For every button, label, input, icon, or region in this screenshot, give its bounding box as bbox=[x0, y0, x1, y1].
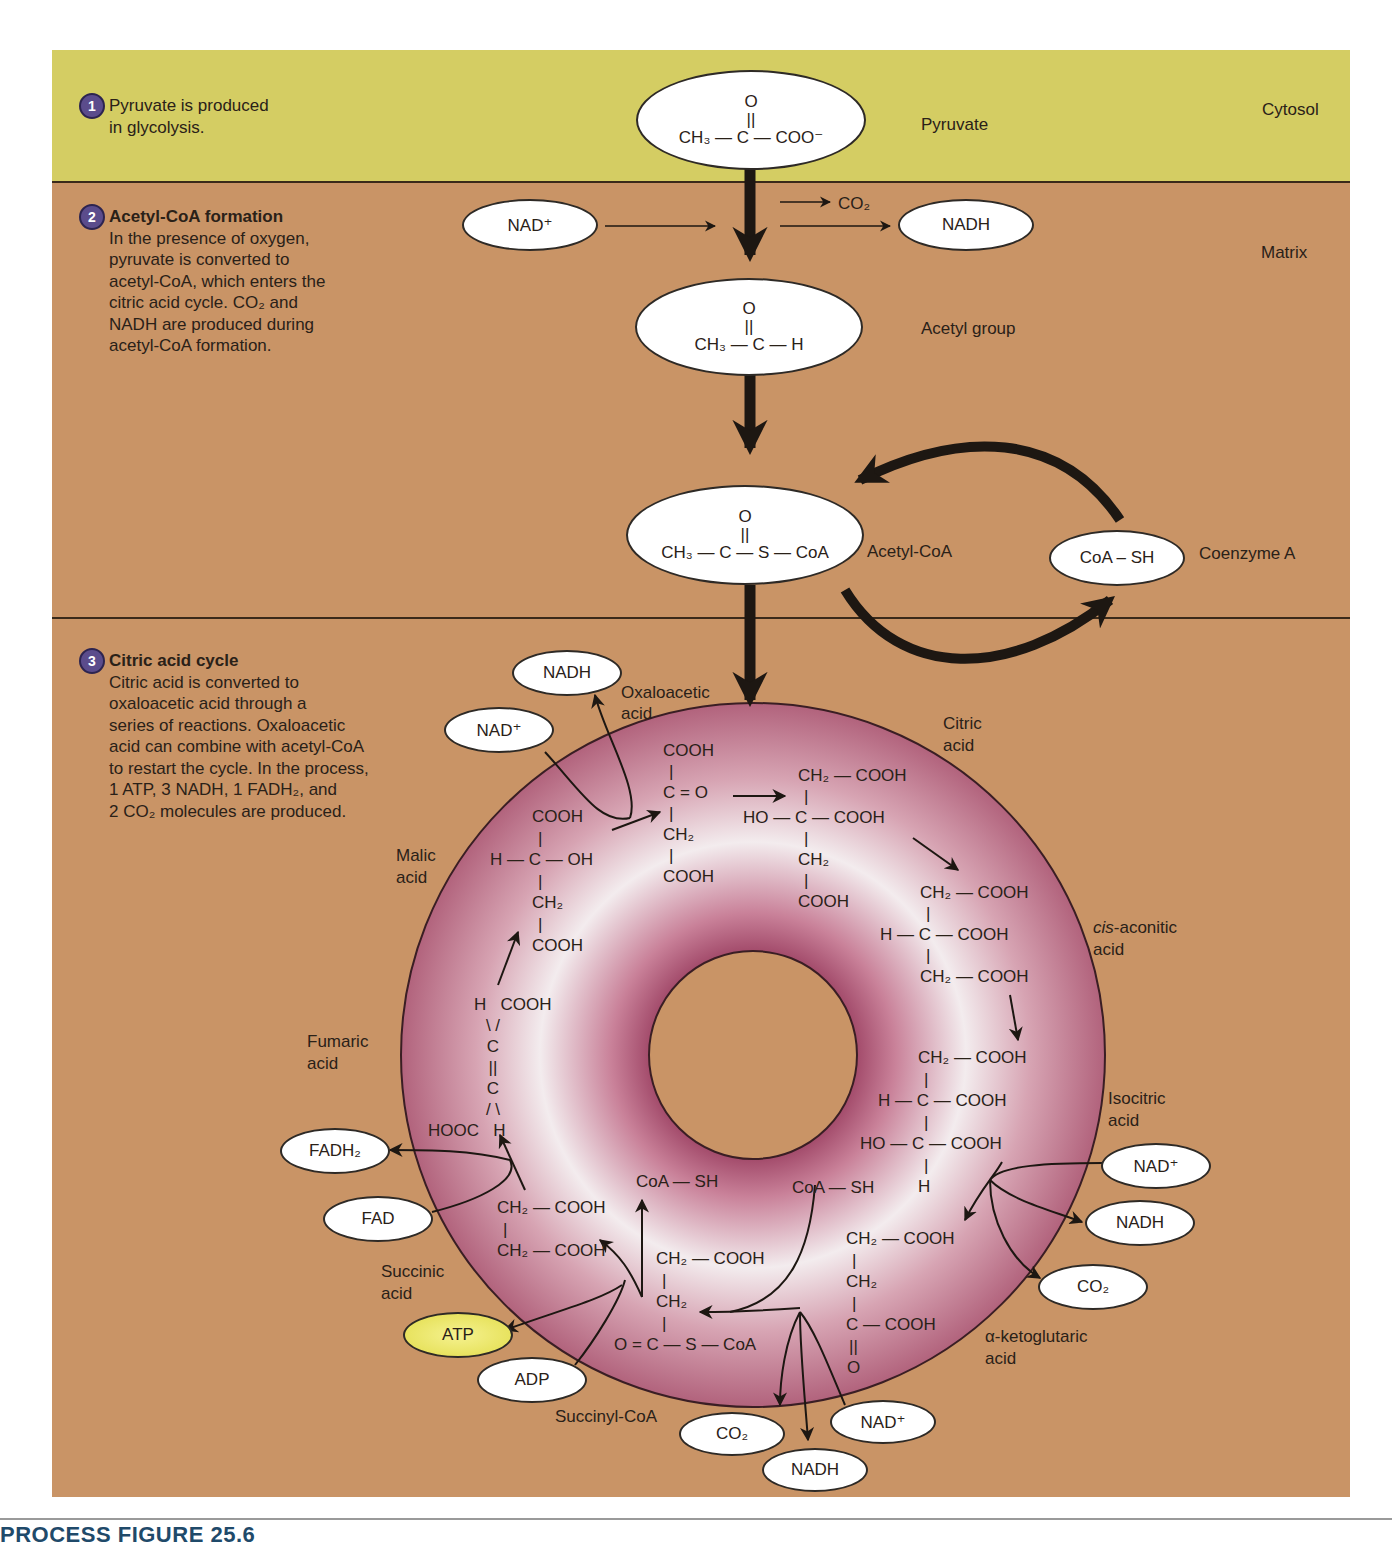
region-label-cytosol: Cytosol bbox=[1262, 99, 1319, 120]
structure-line: CH₂ bbox=[490, 892, 593, 914]
step-3-line: acid can combine with acetyl-CoA bbox=[109, 736, 409, 758]
nad-plus-malic-ellipse: NAD⁺ bbox=[444, 707, 554, 753]
structure-line: CH₂ — COOH bbox=[497, 1197, 606, 1219]
structure-line: | bbox=[490, 914, 593, 936]
nadh-isocitric-ellipse: NADH bbox=[1085, 1200, 1195, 1246]
label-line: acid bbox=[381, 1283, 444, 1305]
structure-line: HO — C — COOH bbox=[743, 807, 907, 828]
structure-line: | bbox=[860, 1069, 1027, 1091]
nadh-ketoglutaric-ellipse: NADH bbox=[762, 1448, 868, 1492]
carbonyl-oxygen: O bbox=[742, 300, 755, 318]
label-oxaloacetic-acid: Oxaloacetic acid bbox=[621, 682, 710, 724]
structure-line: | bbox=[614, 1313, 765, 1335]
nadh-ellipse: NADH bbox=[898, 199, 1034, 251]
structure-line: H COOH bbox=[428, 994, 568, 1015]
step-2-title: Acetyl-CoA formation bbox=[109, 206, 389, 228]
alpha-ketoglutaric-structure: CH₂ — COOH | CH₂ | C — COOH || O bbox=[846, 1228, 955, 1379]
double-bond: || bbox=[747, 111, 756, 129]
double-bond: || bbox=[741, 526, 750, 544]
coa-sh-consumed: CoA — SH bbox=[792, 1178, 874, 1198]
structure-line: H — C — COOH bbox=[860, 1090, 1027, 1112]
step-1-description: 1 Pyruvate is produced in glycolysis. bbox=[109, 95, 369, 138]
label-malic-acid: Malic acid bbox=[396, 845, 436, 889]
step-3-line: oxaloacetic acid through a bbox=[109, 693, 409, 715]
structure-line: | bbox=[663, 761, 714, 782]
coa-sh-released: CoA — SH bbox=[636, 1172, 718, 1192]
structure-line: | bbox=[860, 1155, 1027, 1177]
structure-line: / \ bbox=[428, 1099, 568, 1120]
succinyl-coa-structure: CH₂ — COOH | CH₂ | O = C — S — CoA bbox=[614, 1248, 765, 1356]
label-line: -aconitic bbox=[1114, 918, 1177, 937]
succinic-structure: CH₂ — COOH | CH₂ — COOH bbox=[497, 1197, 606, 1262]
structure-line: C bbox=[428, 1036, 568, 1057]
structure-line: O bbox=[846, 1357, 955, 1379]
acetyl-coa-formula: CH₃ — C — S — CoA bbox=[661, 544, 829, 562]
label-line: Oxaloacetic bbox=[621, 682, 710, 703]
step-2-line: pyruvate is converted to bbox=[109, 249, 389, 271]
structure-line: | bbox=[860, 1112, 1027, 1134]
structure-line: H — C — OH bbox=[490, 849, 593, 871]
step-1-line: Pyruvate is produced bbox=[109, 95, 369, 117]
structure-line: C bbox=[428, 1078, 568, 1099]
coa-sh-ellipse: CoA – SH bbox=[1049, 530, 1185, 586]
structure-line: | bbox=[880, 903, 1029, 924]
label-line: Malic bbox=[396, 845, 436, 867]
adp-ellipse: ADP bbox=[477, 1357, 587, 1403]
label-line: Citric bbox=[943, 713, 982, 735]
structure-line: COOH bbox=[663, 740, 714, 761]
label-pyruvate: Pyruvate bbox=[921, 114, 988, 135]
fumaric-structure: H COOH \ / C || C / \ HOOC H bbox=[428, 994, 568, 1141]
structure-line: | bbox=[614, 1270, 765, 1292]
step-3-line: 1 ATP, 3 NADH, 1 FADH₂, and bbox=[109, 779, 409, 801]
label-line: acid bbox=[985, 1348, 1087, 1370]
label-succinic-acid: Succinic acid bbox=[381, 1261, 444, 1305]
structure-line: || bbox=[846, 1336, 955, 1358]
label-citric-acid: Citric acid bbox=[943, 713, 982, 757]
structure-line: | bbox=[880, 945, 1029, 966]
label-alpha-ketoglutaric-acid: α-ketoglutaric acid bbox=[985, 1326, 1087, 1370]
pyruvate-formula: CH₃ — C — COO⁻ bbox=[679, 129, 823, 147]
label-line: acid bbox=[943, 735, 982, 757]
cis-aconitic-structure: CH₂ — COOH | H — C — COOH | CH₂ — COOH bbox=[880, 882, 1029, 987]
structure-line: CH₂ bbox=[846, 1271, 955, 1293]
double-bond: || bbox=[745, 318, 754, 336]
structure-line: | bbox=[663, 803, 714, 824]
step-3-line: Citric acid is converted to bbox=[109, 672, 409, 694]
step-2-description: 2 Acetyl-CoA formation In the presence o… bbox=[109, 206, 389, 357]
step-3-title: Citric acid cycle bbox=[109, 650, 409, 672]
nadh-oxaloacetic-ellipse: NADH bbox=[512, 650, 622, 696]
figure-caption: PROCESS FIGURE 25.6 bbox=[0, 1522, 255, 1546]
isocitric-structure: CH₂ — COOH | H — C — COOH | HO — C — COO… bbox=[860, 1047, 1027, 1198]
step-1-badge: 1 bbox=[79, 93, 105, 119]
acetyl-formula: CH₃ — C — H bbox=[695, 336, 804, 354]
acetyl-coa-structure: O || CH₃ — C — S — CoA bbox=[626, 485, 864, 585]
acetyl-group-structure: O || CH₃ — C — H bbox=[635, 278, 863, 376]
label-line: Succinic bbox=[381, 1261, 444, 1283]
structure-line: || bbox=[428, 1057, 568, 1078]
label-acetyl-coa: Acetyl-CoA bbox=[867, 541, 952, 562]
step-1-line: in glycolysis. bbox=[109, 117, 369, 139]
label-isocitric-acid: Isocitric acid bbox=[1108, 1088, 1166, 1132]
label-line: acid bbox=[396, 867, 436, 889]
structure-line: CH₂ bbox=[614, 1291, 765, 1313]
structure-line: | bbox=[743, 786, 907, 807]
label-fumaric-acid: Fumaric acid bbox=[307, 1031, 368, 1075]
structure-line: C = O bbox=[663, 782, 714, 803]
structure-line: COOH bbox=[663, 866, 714, 887]
step-3-badge: 3 bbox=[79, 648, 105, 674]
co2-label: CO₂ bbox=[838, 193, 870, 214]
label-line: acid bbox=[1108, 1110, 1166, 1132]
structure-line: | bbox=[497, 1219, 606, 1241]
structure-line: CH₂ bbox=[743, 849, 907, 870]
step-2-line: In the presence of oxygen, bbox=[109, 228, 389, 250]
label-line: acid bbox=[621, 703, 710, 724]
structure-line: | bbox=[490, 871, 593, 893]
structure-line: HO — C — COOH bbox=[860, 1133, 1027, 1155]
pyruvate-structure: O || CH₃ — C — COO⁻ bbox=[636, 70, 866, 170]
label-cis-aconitic-acid: cis-aconitic acid bbox=[1093, 917, 1177, 961]
label-line: acid bbox=[1093, 939, 1177, 961]
region-label-matrix: Matrix bbox=[1261, 242, 1307, 263]
structure-line: CH₂ — COOH bbox=[880, 966, 1029, 987]
step-2-badge: 2 bbox=[79, 204, 105, 230]
structure-line: \ / bbox=[428, 1015, 568, 1036]
